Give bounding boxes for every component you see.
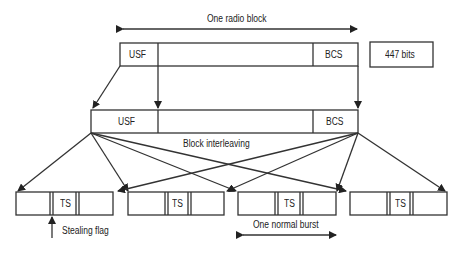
radio-block-diagram: One radio block USF BCS 447 bits USF BCS… — [0, 0, 463, 254]
diagram-lines — [0, 0, 463, 254]
middle-bcs-label: BCS — [326, 116, 343, 127]
stealing-flag-label: Stealing flag — [62, 225, 109, 236]
top-bcs-label: BCS — [325, 49, 342, 60]
burst4-ts-label: TS — [395, 198, 406, 209]
bits-label: 447 bits — [385, 49, 415, 60]
normal-burst-label: One normal burst — [253, 219, 319, 230]
burst3-ts-label: TS — [284, 198, 295, 209]
radio-block-label: One radio block — [207, 13, 267, 24]
burst2-ts-label: TS — [172, 198, 183, 209]
burst1-ts-label: TS — [60, 198, 71, 209]
top-usf-label: USF — [129, 49, 146, 60]
block-interleaving-label: Block interleaving — [183, 138, 250, 149]
middle-usf-label: USF — [118, 116, 135, 127]
